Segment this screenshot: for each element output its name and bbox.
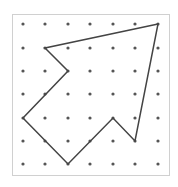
grid-dot [88,69,91,72]
grid-dot [156,92,159,95]
grid-dot [111,92,114,95]
grid-dot [66,22,69,25]
grid-dot [111,139,114,142]
grid-dot [21,92,24,95]
grid-dot [156,139,159,142]
grid-dot [43,69,46,72]
grid-dot [66,116,69,119]
grid-dot [21,139,24,142]
grid-dot [133,116,136,119]
grid-dot [111,46,114,49]
grid-dot [21,162,24,165]
grid-dot [133,92,136,95]
grid-dot [66,92,69,95]
grid-dot [133,69,136,72]
grid-dot [66,46,69,49]
grid-dot [43,162,46,165]
grid-dot [111,69,114,72]
grid-dot [66,139,69,142]
grid-dots [21,22,159,165]
grid-dot [21,22,24,25]
grid-dot [156,116,159,119]
grid-dot [133,46,136,49]
grid-dot [111,162,114,165]
grid-dot [111,22,114,25]
grid-dot [156,69,159,72]
grid-dot [88,46,91,49]
grid-dot [43,22,46,25]
grid-dot [156,162,159,165]
grid-dot [133,162,136,165]
grid-dot [21,46,24,49]
grid-dot [88,116,91,119]
grid-dot [21,69,24,72]
grid-dot [43,116,46,119]
grid-dot [88,22,91,25]
grid-dot [88,162,91,165]
grid-dot [88,92,91,95]
grid-dot [156,46,159,49]
grid-dot [133,22,136,25]
dot-grid-diagram [0,0,178,187]
